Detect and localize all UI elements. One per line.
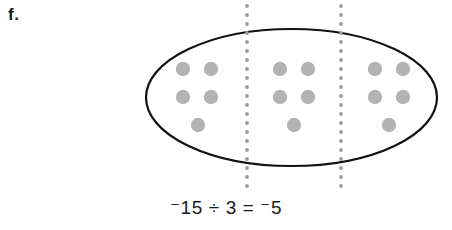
divider-dot — [339, 103, 343, 107]
counter-dot — [396, 90, 410, 104]
counter-dot — [176, 90, 190, 104]
divider-dot — [245, 184, 249, 188]
counter-group-1 — [176, 62, 218, 132]
divider-dot — [245, 31, 249, 35]
divider-line-1 — [245, 4, 249, 188]
divider-dot — [339, 76, 343, 80]
counter-dot — [368, 62, 382, 76]
divider-dot — [339, 67, 343, 71]
divider-dot — [245, 40, 249, 44]
divider-dot — [245, 76, 249, 80]
grouping-diagram — [0, 0, 452, 230]
counter-group-2 — [273, 62, 315, 132]
divider-dot — [339, 139, 343, 143]
divider-line-2 — [339, 4, 343, 188]
divider-dot — [339, 4, 343, 8]
divider-dot — [245, 166, 249, 170]
divider-dot — [245, 175, 249, 179]
divider-dot — [339, 166, 343, 170]
counter-dot — [191, 118, 205, 132]
divider-dot — [339, 157, 343, 161]
divider-dot — [339, 121, 343, 125]
divider-dot — [245, 94, 249, 98]
divider-dot — [245, 22, 249, 26]
divider-dot — [339, 58, 343, 62]
divider-dot — [339, 148, 343, 152]
divider-dot — [245, 85, 249, 89]
divider-dot — [245, 103, 249, 107]
divider-dot — [339, 175, 343, 179]
divider-dot — [339, 13, 343, 17]
counter-dot — [368, 90, 382, 104]
divider-dot — [245, 58, 249, 62]
counter-dot — [287, 118, 301, 132]
counter-dot — [382, 118, 396, 132]
divider-dot — [245, 130, 249, 134]
divider-dot — [339, 184, 343, 188]
counter-dot — [396, 62, 410, 76]
divider-dot — [339, 22, 343, 26]
divider-dot — [245, 139, 249, 143]
counter-group-3 — [368, 62, 410, 132]
divider-dot — [245, 49, 249, 53]
divider-dot — [245, 121, 249, 125]
divider-dot — [339, 85, 343, 89]
divider-dot — [339, 31, 343, 35]
divider-dot — [339, 130, 343, 134]
divider-dot — [245, 148, 249, 152]
worksheet-problem-figure: f. ⁻15 ÷ 3 = ⁻5 — [0, 0, 452, 230]
counter-dot — [273, 62, 287, 76]
divider-dot — [245, 13, 249, 17]
counter-dot — [301, 62, 315, 76]
divider-dot — [339, 40, 343, 44]
divider-dot — [339, 112, 343, 116]
divider-dot — [245, 4, 249, 8]
counter-dot — [204, 90, 218, 104]
divider-dot — [339, 94, 343, 98]
divider-dot — [245, 157, 249, 161]
counter-dot — [204, 62, 218, 76]
counter-dot — [273, 90, 287, 104]
divider-dot — [245, 112, 249, 116]
counter-dot — [301, 90, 315, 104]
divider-dot — [339, 49, 343, 53]
equation-text: ⁻15 ÷ 3 = ⁻5 — [0, 198, 452, 219]
counter-dot — [176, 62, 190, 76]
divider-dot — [245, 67, 249, 71]
